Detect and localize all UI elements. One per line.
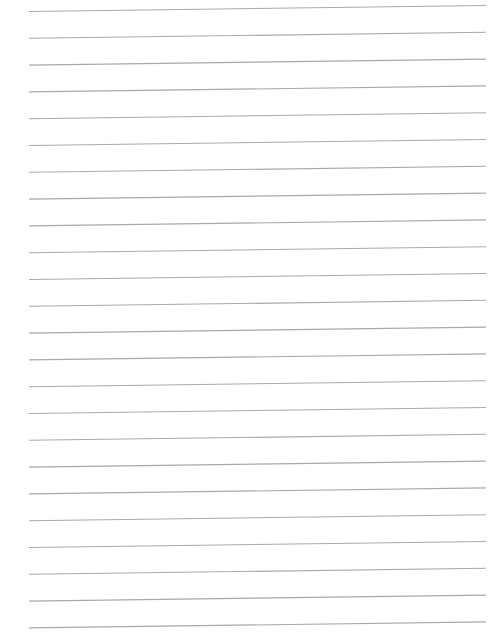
ruled-line: [29, 515, 486, 521]
ruled-line: [29, 622, 486, 628]
ruled-line: [29, 434, 486, 440]
ruled-line: [29, 6, 486, 12]
ruled-line: [29, 354, 486, 360]
ruled-line: [29, 193, 486, 199]
ruled-line: [29, 220, 486, 226]
ruled-line: [29, 300, 486, 306]
ruled-line: [29, 274, 486, 280]
ruled-line: [29, 32, 486, 38]
ruled-line: [29, 86, 486, 92]
ruled-line: [29, 247, 486, 253]
ruled-line: [29, 542, 486, 548]
ruled-line: [29, 488, 486, 494]
ruled-lines: [0, 0, 489, 637]
ruled-line: [29, 408, 486, 414]
ruled-line: [29, 113, 486, 119]
ruled-line: [29, 595, 486, 601]
ruled-line: [29, 166, 486, 172]
ruled-line: [29, 568, 486, 574]
ruled-line: [29, 381, 486, 387]
ruled-line: [29, 327, 486, 333]
ruled-line: [29, 140, 486, 146]
lined-paper-page: [0, 0, 489, 637]
ruled-line: [29, 461, 486, 467]
ruled-line: [29, 59, 486, 65]
